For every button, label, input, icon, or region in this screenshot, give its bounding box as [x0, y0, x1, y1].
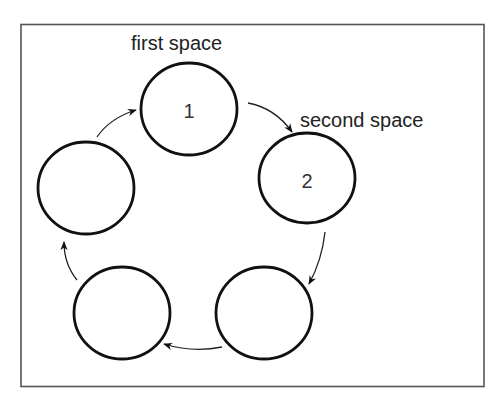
node-2-number: 2 [301, 170, 312, 192]
node-1: 1 [141, 63, 237, 155]
arrow-1-to-2-icon [248, 103, 292, 132]
node-3 [216, 267, 312, 359]
second-space-label: second space [300, 109, 423, 131]
arrow-4-to-5-icon [64, 242, 77, 280]
node-5 [38, 142, 134, 234]
cycle-diagram: first space second space 1 2 [0, 0, 497, 410]
node-2: 2 [259, 133, 355, 223]
arrow-3-to-4-icon [164, 344, 222, 349]
arrow-2-to-3-icon [309, 232, 325, 284]
node-4 [74, 267, 170, 359]
first-space-label: first space [131, 32, 222, 54]
arrow-5-to-1-icon [97, 110, 136, 137]
node-1-number: 1 [183, 100, 194, 122]
